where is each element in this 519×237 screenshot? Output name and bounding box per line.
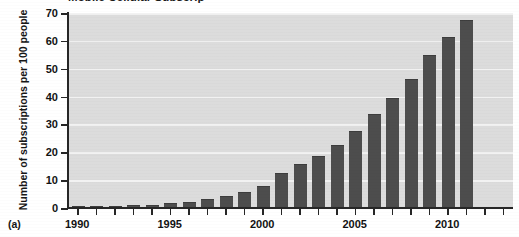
x-axis-tick-label: 1995 bbox=[150, 218, 190, 230]
bar bbox=[423, 55, 436, 208]
x-axis-tick bbox=[318, 209, 320, 215]
y-axis-tick bbox=[61, 13, 68, 15]
y-axis-tick-label: 40 bbox=[24, 92, 58, 103]
y-axis-tick-label: 30 bbox=[24, 119, 58, 130]
x-axis-tick bbox=[77, 209, 79, 215]
y-axis-tick-label: 10 bbox=[24, 175, 58, 186]
panel-letter: (a) bbox=[8, 218, 21, 230]
bar bbox=[312, 156, 325, 208]
y-axis-tick-label: 20 bbox=[24, 147, 58, 158]
x-axis-tick bbox=[96, 209, 98, 215]
bar-series bbox=[69, 13, 513, 208]
y-axis-tick bbox=[61, 41, 68, 43]
y-axis-tick-label: 50 bbox=[24, 64, 58, 75]
y-axis-tick-label: 60 bbox=[24, 36, 58, 47]
x-axis-tick-label: 1990 bbox=[57, 218, 97, 230]
bar bbox=[386, 98, 399, 208]
bar bbox=[405, 79, 418, 208]
x-axis-tick bbox=[225, 209, 227, 215]
x-axis-tick bbox=[355, 209, 357, 215]
x-axis-tick bbox=[503, 209, 505, 215]
y-axis-tick bbox=[61, 124, 68, 126]
y-axis-tick-label: 0 bbox=[24, 203, 58, 214]
x-axis-tick bbox=[299, 209, 301, 215]
chart-title: Mobile Cellular Subscrip bbox=[68, 0, 205, 3]
figure-panel-a: Mobile Cellular Subscrip Number of subsc… bbox=[0, 0, 519, 237]
x-axis-tick bbox=[133, 209, 135, 215]
y-axis-tick bbox=[61, 208, 68, 210]
y-axis-tick bbox=[61, 97, 68, 99]
x-axis-tick bbox=[207, 209, 209, 215]
bar bbox=[442, 37, 455, 208]
x-axis-tick bbox=[188, 209, 190, 215]
y-axis-tick bbox=[61, 152, 68, 154]
bar bbox=[238, 192, 251, 208]
x-axis-tick bbox=[114, 209, 116, 215]
plot-area bbox=[68, 13, 513, 208]
y-axis-tick bbox=[61, 69, 68, 71]
y-axis-tick bbox=[61, 180, 68, 182]
bar bbox=[331, 145, 344, 208]
x-axis-tick bbox=[281, 209, 283, 215]
x-axis-tick bbox=[373, 209, 375, 215]
bar bbox=[294, 164, 307, 208]
x-axis-tick bbox=[244, 209, 246, 215]
x-axis-tick-label: 2000 bbox=[242, 218, 282, 230]
x-axis-tick bbox=[466, 209, 468, 215]
x-axis-tick bbox=[447, 209, 449, 215]
x-axis-tick bbox=[336, 209, 338, 215]
bar bbox=[275, 173, 288, 208]
x-axis-tick bbox=[410, 209, 412, 215]
x-axis-tick bbox=[151, 209, 153, 215]
x-axis-tick-label: 2005 bbox=[335, 218, 375, 230]
bar bbox=[368, 114, 381, 208]
x-axis-tick bbox=[262, 209, 264, 215]
x-axis-tick bbox=[484, 209, 486, 215]
y-axis-tick-label: 70 bbox=[24, 8, 58, 19]
x-axis-tick bbox=[429, 209, 431, 215]
bar bbox=[349, 131, 362, 208]
x-axis-tick bbox=[392, 209, 394, 215]
bar bbox=[460, 20, 473, 208]
x-axis-tick bbox=[170, 209, 172, 215]
x-axis-tick-label: 2010 bbox=[427, 218, 467, 230]
bar bbox=[257, 186, 270, 208]
